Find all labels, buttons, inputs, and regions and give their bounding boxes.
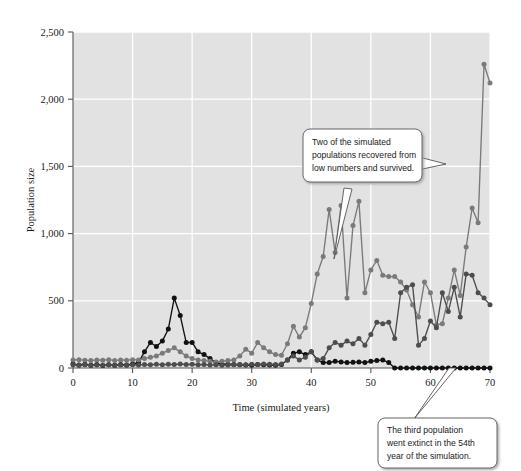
data-point — [160, 339, 165, 344]
data-point — [160, 351, 165, 356]
data-point — [190, 340, 195, 345]
data-point — [333, 340, 338, 345]
data-point — [416, 343, 421, 348]
data-point — [345, 339, 350, 344]
data-point — [142, 349, 147, 354]
data-point — [184, 353, 189, 358]
data-point — [273, 362, 278, 367]
data-point — [172, 296, 177, 301]
data-point — [237, 353, 242, 358]
x-tick-label: 40 — [306, 377, 317, 388]
callout-recovered-line-2: populations recovered from — [312, 150, 416, 160]
data-point — [458, 293, 463, 298]
data-point — [410, 366, 415, 371]
data-point — [350, 223, 355, 228]
data-point — [172, 362, 177, 367]
data-point — [482, 296, 487, 301]
data-point — [404, 366, 409, 371]
data-point — [71, 357, 76, 362]
data-point — [303, 325, 308, 330]
y-axis-title: Population size — [25, 167, 36, 232]
data-point — [154, 353, 159, 358]
data-point — [488, 302, 493, 307]
data-point — [386, 360, 391, 365]
data-point — [160, 362, 165, 367]
data-point — [261, 345, 266, 350]
data-point — [458, 314, 463, 319]
data-point — [339, 343, 344, 348]
data-point — [106, 362, 111, 367]
y-tick-label: 2,000 — [40, 94, 64, 105]
data-point — [243, 347, 248, 352]
y-tick-label: 1,000 — [40, 228, 64, 239]
data-point — [88, 363, 93, 368]
data-point — [398, 366, 403, 371]
data-point — [202, 362, 207, 367]
data-point — [94, 363, 99, 368]
callout-extinct-line-3: year of the simulation. — [387, 451, 471, 461]
data-point — [297, 357, 302, 362]
data-point — [267, 349, 272, 354]
data-point — [130, 362, 135, 367]
data-point — [345, 360, 350, 365]
data-point — [416, 314, 421, 319]
data-point — [261, 361, 266, 366]
data-point — [440, 366, 445, 371]
data-point — [166, 362, 171, 367]
callout-recovered-line-1: Two of the simulated — [312, 137, 391, 147]
data-point — [285, 357, 290, 362]
data-point — [112, 363, 117, 368]
data-point — [136, 357, 141, 362]
data-point — [446, 296, 451, 301]
data-point — [428, 318, 433, 323]
data-point — [374, 258, 379, 263]
data-point — [82, 362, 87, 367]
data-point — [482, 366, 487, 371]
data-point — [488, 81, 493, 86]
data-point — [392, 274, 397, 279]
data-point — [82, 358, 87, 363]
x-tick-label: 50 — [366, 377, 377, 388]
data-point — [166, 348, 171, 353]
data-point — [255, 362, 260, 367]
data-point — [464, 366, 469, 371]
data-point — [315, 271, 320, 276]
callout-extinct-line-1: The third population — [387, 425, 463, 435]
data-point — [362, 360, 367, 365]
data-point — [148, 362, 153, 367]
data-point — [285, 341, 290, 346]
data-point — [142, 362, 147, 367]
data-point — [470, 366, 475, 371]
data-point — [368, 359, 373, 364]
callout-extinct-line-2: went extinct in the 54th — [386, 438, 475, 448]
data-point — [410, 282, 415, 287]
data-point — [321, 254, 326, 259]
data-point — [434, 325, 439, 330]
data-point — [321, 356, 326, 361]
data-point — [428, 366, 433, 371]
data-point — [106, 357, 111, 362]
data-point — [118, 357, 123, 362]
y-tick-label: 500 — [48, 295, 64, 306]
data-point — [279, 353, 284, 358]
data-point — [178, 313, 183, 318]
data-point — [184, 362, 189, 367]
population-size-line-chart: 05001,0001,5002,0002,500 010203040506070… — [0, 0, 521, 471]
data-point — [356, 336, 361, 341]
data-point — [398, 279, 403, 284]
data-point — [231, 362, 236, 367]
data-point — [392, 366, 397, 371]
data-point — [213, 362, 218, 367]
data-point — [327, 360, 332, 365]
data-point — [237, 362, 242, 367]
data-point — [297, 335, 302, 340]
data-point — [76, 357, 81, 362]
data-point — [422, 336, 427, 341]
data-point — [362, 290, 367, 295]
data-point — [327, 207, 332, 212]
data-point — [476, 220, 481, 225]
data-point — [166, 327, 171, 332]
data-point — [362, 343, 367, 348]
data-point — [398, 290, 403, 295]
data-point — [422, 279, 427, 284]
